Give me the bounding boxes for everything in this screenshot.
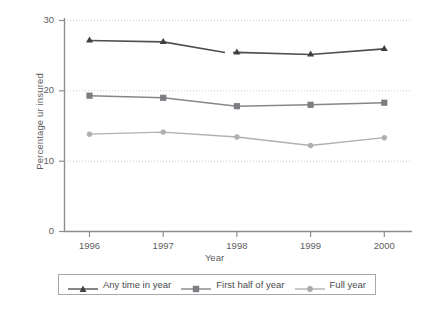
chart-legend: Any time in year First half of year Full… <box>58 274 376 295</box>
legend-label-first-half-of-year: First half of year <box>216 279 284 290</box>
legend-item-first-half-of-year[interactable]: First half of year <box>181 279 284 290</box>
y-axis-ticks <box>59 21 65 232</box>
square-marker-icon <box>181 280 211 290</box>
x-tick-label-2000: 2000 <box>361 240 407 251</box>
y-tick-label-30: 30 <box>28 14 54 25</box>
x-tick-label-1999: 1999 <box>288 240 334 251</box>
series-first-half-of-year <box>86 93 387 110</box>
triangle-marker-icon <box>68 280 98 290</box>
circle-marker-icon <box>295 280 325 290</box>
x-tick-label-1996: 1996 <box>67 240 113 251</box>
legend-item-any-time-in-year[interactable]: Any time in year <box>68 279 171 290</box>
y-tick-label-0: 0 <box>28 225 54 236</box>
y-axis-title: Percentage ur insured <box>34 42 45 202</box>
x-tick-label-1998: 1998 <box>214 240 260 251</box>
x-tick-label-1997: 1997 <box>140 240 186 251</box>
line-chart: 30 20 10 0 1996 1997 1998 1999 2000 Perc… <box>0 0 429 310</box>
legend-item-full-year[interactable]: Full year <box>295 279 366 290</box>
series-any-time-in-year <box>86 37 388 57</box>
legend-label-any-time-in-year: Any time in year <box>103 279 171 290</box>
series-full-year <box>87 129 387 148</box>
legend-label-full-year: Full year <box>330 279 366 290</box>
x-axis-title: Year <box>0 252 429 263</box>
plot-area <box>0 0 429 310</box>
x-axis-ticks <box>90 232 385 238</box>
